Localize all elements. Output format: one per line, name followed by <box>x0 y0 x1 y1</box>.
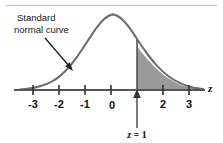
tick-label-minus1: -1 <box>80 98 90 110</box>
x-axis-label: z <box>207 82 213 94</box>
callout-arrow-shaft <box>45 38 70 67</box>
callout-text-line1: Standard <box>17 12 56 23</box>
tick-label-minus3: -3 <box>28 98 38 110</box>
tick-label-two: 2 <box>160 98 166 110</box>
z-value-label: z = 1 <box>126 129 147 140</box>
z-value-label-rest: = 1 <box>131 129 147 140</box>
callout-text-line2: normal curve <box>14 24 69 35</box>
tick-label-minus2: -2 <box>54 98 64 110</box>
normal-curve-plot: -3 -2 -1 0 2 3 z z = 1 Standard normal c… <box>0 0 223 143</box>
tick-label-three: 3 <box>186 98 192 110</box>
standard-normal-curve-figure: -3 -2 -1 0 2 3 z z = 1 Standard normal c… <box>0 0 223 143</box>
tick-label-zero: 0 <box>109 99 115 111</box>
